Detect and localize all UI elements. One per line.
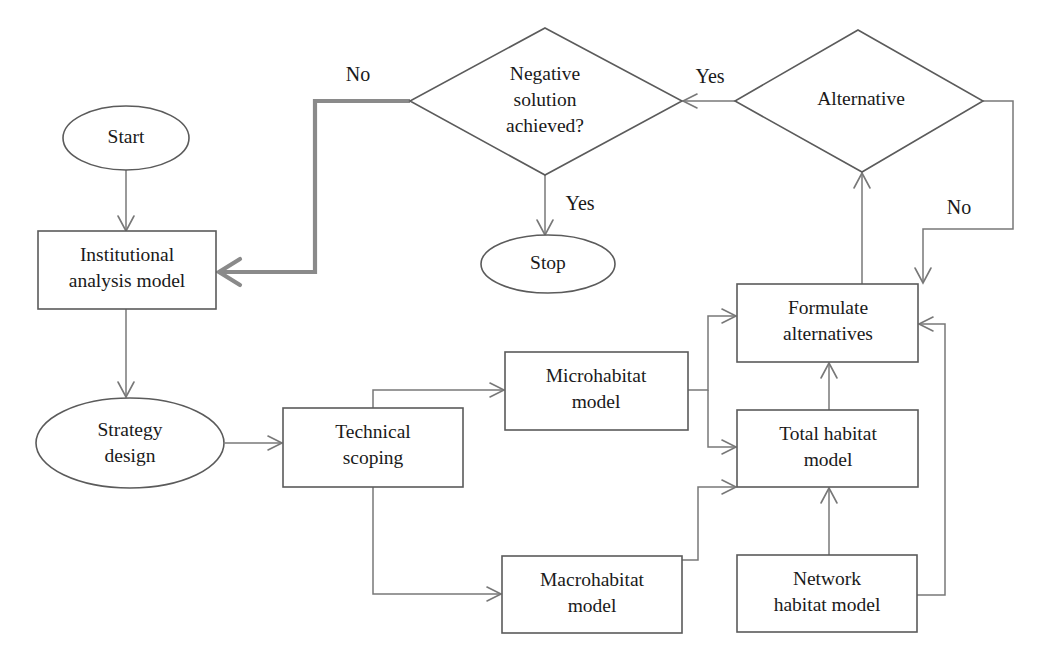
edge-technical-to-micro <box>373 383 504 408</box>
edge-technical-to-macro <box>373 487 501 601</box>
edge-label-alternative-yes: Yes <box>695 65 724 87</box>
edge-network-to-total <box>821 488 837 555</box>
node-alternative-label: Alternative <box>817 88 905 109</box>
node-formulate-alternatives[interactable]: Formulate alternatives <box>737 284 918 362</box>
node-macrohabitat-model[interactable]: Macrohabitat model <box>502 556 682 633</box>
edge-label-alternative-no: No <box>947 196 971 218</box>
edge-negative-yes-to-stop <box>537 175 553 235</box>
edge-micro-to-total <box>708 390 736 454</box>
node-institutional-label-line1: Institutional <box>80 244 175 265</box>
edge-label-negative-yes: Yes <box>565 192 594 214</box>
node-network-habitat-model[interactable]: Network habitat model <box>737 555 917 632</box>
edge-strategy-to-technical <box>225 436 282 450</box>
edge-network-to-formulate <box>917 317 945 595</box>
node-strategy-label-line2: design <box>105 445 156 466</box>
node-network-label-line2: habitat model <box>774 594 881 615</box>
edge-label-negative-no: No <box>346 63 370 85</box>
node-negative-label-line2: solution <box>514 89 577 110</box>
node-formulate-label-line1: Formulate <box>788 297 868 318</box>
edge-start-to-institutional <box>118 170 134 231</box>
node-macro-label-line2: model <box>568 595 617 616</box>
edge-formulate-to-alternative <box>854 173 870 284</box>
node-macro-label-line1: Macrohabitat <box>540 569 645 590</box>
node-micro-label-line1: Microhabitat <box>546 365 647 386</box>
node-technical-label-line1: Technical <box>335 421 411 442</box>
node-negative-label-line1: Negative <box>510 63 580 84</box>
node-alternative-decision[interactable]: Alternative <box>735 30 983 172</box>
edge-alternative-yes-to-negative <box>683 94 735 108</box>
edge-micro-to-formulate <box>688 309 736 390</box>
node-total-label-line2: model <box>804 449 853 470</box>
node-microhabitat-model[interactable]: Microhabitat model <box>505 352 688 430</box>
node-negative-label-line3: achieved? <box>506 115 584 136</box>
edge-total-to-formulate <box>821 363 837 410</box>
edge-institutional-to-strategy <box>118 308 134 397</box>
node-network-label-line1: Network <box>793 568 861 589</box>
node-formulate-label-line2: alternatives <box>783 323 873 344</box>
node-start[interactable]: Start <box>63 106 189 170</box>
node-institutional-label-line2: analysis model <box>69 270 186 291</box>
node-negative-solution-decision[interactable]: Negative solution achieved? <box>410 28 682 175</box>
node-stop-label: Stop <box>530 252 566 273</box>
node-total-habitat-model[interactable]: Total habitat model <box>737 410 918 487</box>
node-micro-label-line2: model <box>572 391 621 412</box>
node-strategy-design[interactable]: Strategy design <box>36 398 224 488</box>
node-technical-scoping[interactable]: Technical scoping <box>283 408 463 487</box>
node-technical-label-line2: scoping <box>343 447 404 468</box>
node-strategy-label-line1: Strategy <box>98 419 163 440</box>
edge-macro-to-total <box>682 480 736 560</box>
node-institutional-analysis-model[interactable]: Institutional analysis model <box>38 231 216 309</box>
flowchart-canvas: Start Institutional analysis model Strat… <box>0 0 1051 668</box>
edge-negative-no-to-institutional <box>219 101 410 285</box>
flowchart-diagram: Start Institutional analysis model Strat… <box>0 0 1051 668</box>
node-total-label-line1: Total habitat <box>779 423 877 444</box>
node-start-label: Start <box>108 126 145 147</box>
node-stop[interactable]: Stop <box>481 235 615 293</box>
